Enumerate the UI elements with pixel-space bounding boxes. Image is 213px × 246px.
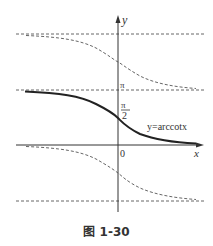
- upper-dashed-branch: [26, 36, 196, 89]
- arccot-curve: [25, 92, 196, 144]
- tick-half-pi-numerator: π: [121, 100, 126, 110]
- tick-half-pi-denominator: 2: [122, 110, 127, 121]
- function-label: y=arccotx: [147, 121, 187, 132]
- arccot-graph: y x 0 π π 2 y=arccotx: [0, 0, 213, 246]
- lower-dashed-branch: [26, 147, 196, 200]
- x-axis-label: x: [193, 147, 199, 159]
- y-axis-label: y: [121, 13, 128, 27]
- origin-label: 0: [120, 148, 125, 159]
- tick-pi-label: π: [120, 80, 125, 90]
- y-axis-arrow-icon: [116, 15, 121, 23]
- figure-caption: 图 1-30: [0, 222, 213, 239]
